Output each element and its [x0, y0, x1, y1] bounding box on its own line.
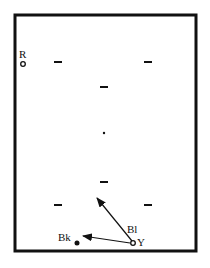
ball-label-r: R	[19, 48, 27, 60]
spot-mark	[100, 86, 108, 88]
ball-bl	[103, 132, 105, 134]
ball-label-bl: Bl	[127, 223, 137, 235]
spot-mark	[100, 181, 108, 183]
spot-mark	[54, 61, 62, 63]
table-border	[15, 15, 196, 251]
shot-arrow	[83, 236, 130, 243]
ball-bk	[75, 241, 80, 246]
spot-mark	[144, 204, 152, 206]
balls	[21, 62, 136, 246]
snooker-diagram: RBkBlY	[0, 0, 210, 268]
spot-mark	[54, 204, 62, 206]
shot-arrows	[83, 198, 132, 243]
ball-y	[131, 241, 136, 246]
ball-labels: RBkBlY	[19, 48, 145, 248]
ball-r	[21, 62, 26, 67]
ball-label-y: Y	[137, 236, 145, 248]
ball-label-bk: Bk	[58, 231, 71, 243]
spot-mark	[144, 61, 152, 63]
